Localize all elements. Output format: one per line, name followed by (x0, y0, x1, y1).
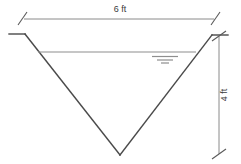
top-width-dimension: 6 ft (18, 4, 220, 25)
top-width-label: 6 ft (114, 4, 127, 14)
right-bank-slope (120, 35, 212, 155)
channel-cross-section-diagram: 6 ft 4 ft (0, 0, 241, 164)
diagram-canvas: 6 ft 4 ft (0, 0, 241, 164)
water-surface (38, 52, 196, 63)
depth-dimension: 4 ft (212, 31, 229, 159)
depth-label: 4 ft (219, 88, 229, 101)
